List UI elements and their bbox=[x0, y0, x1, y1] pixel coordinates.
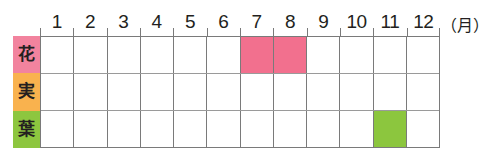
grid-cell bbox=[274, 37, 307, 73]
grid-cell bbox=[141, 111, 174, 147]
grid-cell bbox=[108, 37, 141, 73]
tick-7 bbox=[240, 28, 273, 36]
row-label-fruit: 実 bbox=[13, 73, 40, 110]
row-label-flower: 花 bbox=[13, 36, 40, 73]
grid-cell bbox=[241, 74, 274, 110]
grid-cell bbox=[207, 37, 240, 73]
grid-cell bbox=[74, 74, 107, 110]
grid-cell bbox=[274, 74, 307, 110]
grid-cell bbox=[174, 74, 207, 110]
grid-cell bbox=[108, 74, 141, 110]
grid-cell bbox=[340, 111, 373, 147]
grid-cell bbox=[74, 111, 107, 147]
grid-cell bbox=[207, 111, 240, 147]
grid-cell bbox=[174, 37, 207, 73]
grid-cell bbox=[141, 37, 174, 73]
tick-9 bbox=[307, 28, 340, 36]
grid-cell bbox=[374, 74, 407, 110]
axis-unit-note: （月） bbox=[441, 4, 483, 38]
tick-6 bbox=[207, 28, 240, 36]
grid-cell bbox=[374, 111, 407, 147]
grid-cell bbox=[307, 111, 340, 147]
grid-cell bbox=[274, 111, 307, 147]
grid-cell bbox=[307, 37, 340, 73]
table-row bbox=[41, 37, 439, 74]
grid-cell bbox=[41, 74, 74, 110]
grid-cell bbox=[108, 111, 141, 147]
grid-cell bbox=[407, 37, 439, 73]
grid-cell bbox=[340, 37, 373, 73]
tick-12 bbox=[407, 28, 440, 36]
table-row bbox=[41, 111, 439, 147]
tick-end bbox=[439, 28, 440, 36]
grid-cell bbox=[141, 74, 174, 110]
grid-cell bbox=[241, 37, 274, 73]
grid-cell bbox=[340, 74, 373, 110]
grid-cell bbox=[407, 111, 439, 147]
grid-cell bbox=[41, 37, 74, 73]
table-row bbox=[41, 74, 439, 111]
grid-cell bbox=[41, 111, 74, 147]
tick-11 bbox=[373, 28, 406, 36]
grid-cell bbox=[207, 74, 240, 110]
calendar-grid bbox=[40, 36, 440, 148]
tick-3 bbox=[107, 28, 140, 36]
category-label-column: 花 実 葉 bbox=[13, 36, 40, 148]
row-label-leaf: 葉 bbox=[13, 111, 40, 148]
grid-cell bbox=[241, 111, 274, 147]
grid-cell bbox=[374, 37, 407, 73]
tick-5 bbox=[173, 28, 206, 36]
grid-cell bbox=[307, 74, 340, 110]
tick-8 bbox=[273, 28, 306, 36]
tick-10 bbox=[340, 28, 373, 36]
month-tick-marks bbox=[40, 28, 440, 36]
tick-2 bbox=[73, 28, 106, 36]
tick-1 bbox=[40, 28, 73, 36]
grid-cell bbox=[74, 37, 107, 73]
grid-cell bbox=[174, 111, 207, 147]
grid-cell bbox=[407, 74, 439, 110]
grid-rows bbox=[41, 37, 439, 147]
tick-4 bbox=[140, 28, 173, 36]
